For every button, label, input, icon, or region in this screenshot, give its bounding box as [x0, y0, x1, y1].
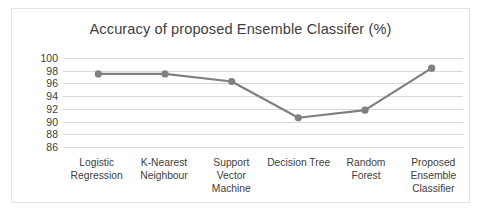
x-axis-category-line: Support — [199, 156, 264, 169]
data-point-marker — [95, 70, 102, 77]
y-axis-tick-label: 94 — [46, 91, 58, 102]
data-series-line — [63, 49, 473, 159]
data-point-marker — [161, 70, 168, 77]
x-axis-category-line: Machine — [199, 182, 264, 195]
x-axis-category-label: RandomForest — [332, 156, 399, 210]
y-axis-tick-label: 88 — [46, 129, 58, 140]
y-axis-tick-label: 100 — [40, 53, 58, 64]
x-axis-category-line: Classifier — [401, 182, 466, 195]
x-axis-category-line: K-Nearest — [131, 156, 196, 169]
chart-title: Accuracy of proposed Ensemble Classifer … — [12, 21, 469, 37]
data-point-marker — [228, 78, 235, 85]
x-axis-category-label: ProposedEnsembleClassifier — [400, 156, 467, 210]
series-path — [98, 68, 431, 118]
x-axis-category-line: Decision Tree — [266, 156, 331, 169]
y-axis-tick-label: 96 — [46, 78, 58, 89]
x-axis-category-line: Regression — [64, 169, 129, 182]
x-axis-category-line: Random — [333, 156, 398, 169]
y-axis-tick-label: 90 — [46, 116, 58, 127]
x-axis-category-label: SupportVectorMachine — [198, 156, 265, 210]
y-axis: 10098969492908886 — [20, 58, 58, 147]
x-axis-category-line: Neighbour — [131, 169, 196, 182]
x-axis-category-label: LogisticRegression — [63, 156, 130, 210]
chart-container: Accuracy of proposed Ensemble Classifer … — [11, 8, 470, 203]
y-axis-tick-label: 86 — [46, 142, 58, 153]
x-axis-category-line: Logistic — [64, 156, 129, 169]
x-axis-category-label: K-NearestNeighbour — [130, 156, 197, 210]
y-axis-tick-label: 98 — [46, 65, 58, 76]
x-axis-category-line: Vector — [199, 169, 264, 182]
data-point-marker — [295, 114, 302, 121]
y-axis-tick-label: 92 — [46, 104, 58, 115]
x-axis-category-line: Ensemble — [401, 169, 466, 182]
x-axis-category-line: Proposed — [401, 156, 466, 169]
x-axis-category-label: Decision Tree — [265, 156, 332, 210]
data-point-marker — [361, 107, 368, 114]
data-point-marker — [428, 65, 435, 72]
x-axis-category-line: Forest — [333, 169, 398, 182]
x-axis: LogisticRegressionK-NearestNeighbourSupp… — [63, 156, 467, 210]
